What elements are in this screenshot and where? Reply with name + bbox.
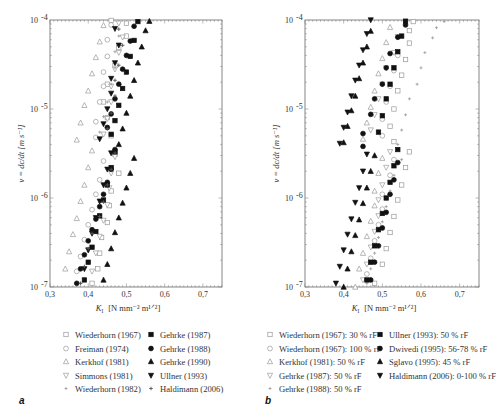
data-series <box>63 23 106 271</box>
data-point <box>388 173 393 178</box>
legend-item: Ullner (1993): 50 % rF <box>374 329 496 343</box>
data-point <box>372 260 377 265</box>
legend-label: Ullner (1993) <box>160 371 207 383</box>
data-point <box>124 110 129 115</box>
data-point <box>376 71 381 76</box>
legend-item: Ullner (1993) <box>145 370 223 384</box>
data-point <box>360 201 365 206</box>
data-point <box>78 198 83 203</box>
data-point <box>345 232 350 237</box>
data-point <box>101 84 106 89</box>
x-tick-label: 0,5 <box>377 290 387 299</box>
y-tick-label: 10 <box>30 105 38 114</box>
legend-marker-icon <box>377 359 382 364</box>
data-point <box>407 41 411 45</box>
data-point <box>89 148 94 153</box>
data-point <box>373 252 376 255</box>
data-point <box>78 120 83 125</box>
y-axis-label: v = dc/dt [m s⁻¹] <box>271 124 281 182</box>
data-point <box>399 183 403 187</box>
chart-panel-b: 0,30,40,50,60,710-410-510-610-7v = dc/dt… <box>271 13 479 315</box>
data-point <box>79 282 83 286</box>
x-tick-label: 0,7 <box>455 290 465 299</box>
data-point <box>128 93 133 98</box>
data-series <box>74 24 136 286</box>
data-point <box>368 104 373 109</box>
legend-item: Gehrke (1987): 50 % rF <box>264 370 381 384</box>
filled-square-icon <box>145 329 157 343</box>
y-tick-label: 10 <box>30 194 38 203</box>
data-point <box>109 18 113 22</box>
legend-label: Gehrke (1990) <box>160 357 210 369</box>
legend-b-column-1: Wiederhorn (1967): 30 % rFWiederhorn (19… <box>264 329 381 397</box>
data-point <box>333 281 338 286</box>
data-point <box>407 150 411 154</box>
data-point <box>116 50 121 55</box>
legend-a-column-2: Gehrke (1987)Gehrke (1988)Gehrke (1990)U… <box>145 329 223 397</box>
data-point <box>388 192 393 197</box>
y-tick-exponent: -4 <box>41 13 48 22</box>
data-point <box>353 233 358 238</box>
data-point <box>364 152 369 157</box>
data-point <box>109 132 113 136</box>
data-point <box>86 238 91 243</box>
data-point <box>101 132 106 137</box>
data-point <box>360 48 365 53</box>
data-point <box>357 217 362 222</box>
data-point <box>90 207 95 212</box>
open-circle-icon <box>264 343 276 357</box>
small-plus-icon <box>60 383 72 397</box>
data-point <box>372 153 377 158</box>
data-point <box>105 54 110 59</box>
data-point <box>113 79 117 83</box>
data-point <box>387 150 392 155</box>
data-point <box>372 88 377 93</box>
data-point <box>82 278 86 282</box>
data-point <box>112 230 117 235</box>
data-point <box>131 78 136 83</box>
data-point <box>97 137 102 142</box>
data-point <box>387 24 392 29</box>
data-point <box>109 91 114 96</box>
data-point <box>372 238 377 243</box>
filled-triangle-up-icon <box>145 356 157 370</box>
data-point <box>364 32 369 37</box>
data-point <box>121 43 125 47</box>
data-point <box>89 71 94 76</box>
x-tick-label: 0,4 <box>339 290 349 299</box>
y-tick-label: 10 <box>285 105 293 114</box>
data-point <box>361 131 366 136</box>
data-point <box>96 267 100 271</box>
data-series <box>74 23 113 274</box>
data-point <box>86 260 90 264</box>
data-point <box>136 19 140 23</box>
legend-item: Gehrke (1990) <box>145 356 223 370</box>
data-point <box>112 26 117 31</box>
data-point <box>357 186 362 191</box>
data-point <box>93 192 98 197</box>
data-point <box>380 262 384 266</box>
legend-item: Kerkhof (1981): 50 % rF <box>264 356 381 370</box>
x-tick-label: 0,5 <box>121 290 131 299</box>
data-point <box>93 119 98 124</box>
data-point <box>392 164 396 168</box>
filled-circle-icon <box>145 343 157 357</box>
data-point <box>396 89 400 93</box>
legend-item: Gehrke (1988): 50 % rF <box>264 383 381 397</box>
data-point <box>376 198 381 203</box>
y-tick-exponent: -7 <box>41 280 48 289</box>
data-point <box>97 204 102 209</box>
y-tick-exponent: -6 <box>296 191 303 200</box>
data-point <box>135 60 140 65</box>
plot-frame <box>50 20 222 287</box>
data-point <box>106 100 109 103</box>
legend-marker-icon <box>268 346 273 351</box>
legend-item: Kerkhof (1981) <box>60 356 141 370</box>
x-tick-label: 0,3 <box>45 290 55 299</box>
legend-item: Gehrke (1987) <box>145 329 223 343</box>
data-point <box>63 266 68 271</box>
data-point <box>74 216 79 221</box>
data-point <box>102 115 105 118</box>
plot-frame <box>305 20 479 287</box>
open-triangle-down-icon <box>60 370 72 384</box>
